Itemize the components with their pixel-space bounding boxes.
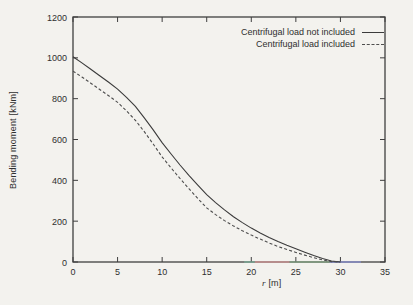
x-tick-label: 10 <box>150 267 174 277</box>
legend: Centrifugal load not included Centrifuga… <box>241 27 384 50</box>
legend-entry-included: Centrifugal load included <box>256 39 384 50</box>
figure: 020040060080010001200 05101520253035 Ben… <box>0 0 413 305</box>
x-tick-label: 5 <box>106 267 130 277</box>
solid-line-sample-icon <box>362 32 384 33</box>
x-tick-label: 0 <box>61 267 85 277</box>
y-tick-label: 0 <box>37 258 67 268</box>
y-axis-title: Bending moment [kNm] <box>8 91 18 189</box>
x-tick-label: 20 <box>239 267 263 277</box>
x-tick-label: 15 <box>195 267 219 277</box>
x-tick-label: 35 <box>373 267 397 277</box>
x-axis-title-variable: r <box>262 278 266 288</box>
y-tick-label: 400 <box>37 176 67 186</box>
y-tick-label: 1200 <box>37 13 67 23</box>
x-axis-title: r [m] <box>262 278 282 288</box>
y-tick-label: 600 <box>37 135 67 145</box>
x-tick-label: 25 <box>284 267 308 277</box>
series-line-dashed <box>73 71 340 262</box>
dashed-line-sample-icon <box>362 44 384 45</box>
plot-border <box>73 17 385 262</box>
y-tick-label: 200 <box>37 217 67 227</box>
legend-label: Centrifugal load not included <box>241 27 355 38</box>
legend-label: Centrifugal load included <box>256 39 355 50</box>
legend-entry-not-included: Centrifugal load not included <box>241 27 384 38</box>
y-tick-label: 800 <box>37 94 67 104</box>
x-tick-label: 30 <box>328 267 352 277</box>
y-tick-label: 1000 <box>37 53 67 63</box>
x-axis-title-unit: [m] <box>268 278 281 288</box>
series-line-solid <box>73 57 340 262</box>
